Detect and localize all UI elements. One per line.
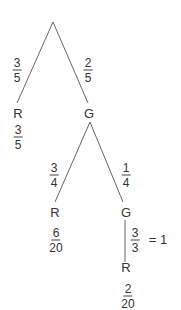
result-r3: 2 20 (121, 283, 134, 310)
node-g2: G (121, 206, 131, 219)
node-r3: R (121, 261, 130, 274)
result-r1: 3 5 (14, 124, 23, 151)
prob-r1: 3 5 (13, 57, 22, 84)
branch-g-g (90, 122, 123, 202)
node-g1: G (84, 107, 94, 120)
prob-g1: 2 5 (84, 57, 93, 84)
branch-g-r (55, 122, 90, 202)
prob-r2: 3 4 (50, 162, 59, 189)
equals-one: = 1 (149, 233, 167, 246)
prob-g2: 1 4 (122, 162, 131, 189)
result-r2: 6 20 (49, 227, 62, 254)
branch-root-r (17, 22, 53, 103)
node-r1: R (13, 107, 22, 120)
tree-branches (0, 0, 181, 310)
prob-r3: 3 3 (131, 227, 140, 254)
node-r2: R (50, 206, 59, 219)
